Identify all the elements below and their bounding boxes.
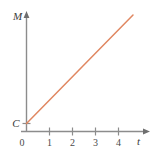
- intercept-label-c: C: [12, 117, 20, 129]
- linear-graph-figure: M t C 0 1 2 3 4: [0, 0, 157, 152]
- x-axis-arrowhead: [143, 129, 150, 135]
- x-tick-label-1: 1: [47, 137, 52, 148]
- plot-svg: M t C 0 1 2 3 4: [0, 0, 157, 152]
- y-axis-label: M: [12, 10, 23, 22]
- x-tick-label-2: 2: [70, 137, 75, 148]
- x-tick-label-3: 3: [93, 137, 98, 148]
- x-tick-label-4: 4: [116, 137, 121, 148]
- y-axis-arrowhead: [24, 11, 30, 18]
- origin-label: 0: [20, 137, 25, 148]
- x-axis-label: t: [137, 135, 141, 147]
- line-series-m-of-t: [27, 15, 134, 124]
